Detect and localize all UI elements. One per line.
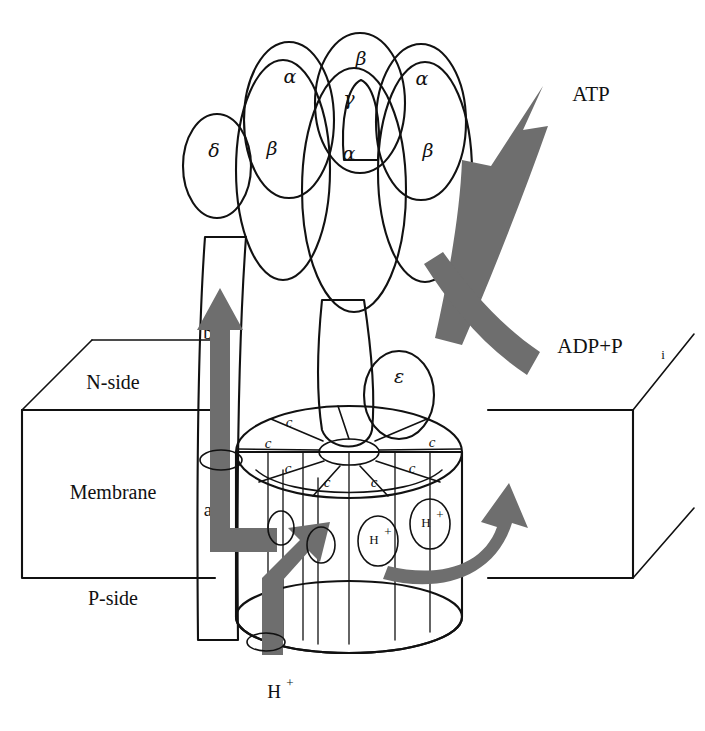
- proton-1-label: H: [369, 532, 378, 547]
- membrane-p-side-label: P-side: [88, 587, 138, 609]
- alpha-back-left-label: α: [284, 65, 297, 87]
- gamma-stalk: [318, 300, 373, 447]
- beta-front-left-label: β: [266, 137, 278, 159]
- c-subunit-label: c: [371, 474, 378, 490]
- f1-back-row: α β α γ: [244, 33, 466, 200]
- c-subunit-label: c: [285, 460, 292, 476]
- adp-label-group: ADP+P i: [557, 334, 665, 362]
- membrane-n-side-label: N-side: [86, 371, 139, 393]
- atp-label: ATP: [572, 82, 609, 106]
- alpha-back-left: α: [244, 42, 334, 198]
- atp-output-arrow: [435, 86, 548, 345]
- membrane-body-label: Membrane: [70, 481, 157, 503]
- adp-label: ADP+P: [557, 334, 623, 358]
- adp-subscript-label: i: [661, 347, 665, 362]
- c-subunit-label: c: [265, 435, 272, 451]
- epsilon-subunit-label: ε: [394, 365, 404, 387]
- delta-subunit: δ: [183, 114, 251, 218]
- gamma-subunit-label: γ: [343, 87, 355, 109]
- c-subunit-label: c: [409, 460, 416, 476]
- delta-subunit-label: δ: [208, 139, 219, 161]
- alpha-front-center-label: α: [343, 142, 356, 164]
- membrane-right-slab: [488, 334, 694, 578]
- c-subunit-label: c: [324, 474, 331, 490]
- epsilon-subunit: ε: [364, 351, 434, 439]
- alpha-back-right-label: α: [416, 67, 429, 89]
- proton-2-label: H: [421, 515, 430, 530]
- proton-source-label: H: [267, 681, 281, 702]
- proton-1-charge: +: [384, 524, 391, 539]
- beta-back-center-label: β: [355, 47, 367, 69]
- proton-source-charge: +: [286, 675, 293, 690]
- proton-2-charge: +: [436, 507, 443, 522]
- proton-source-label-group: H +: [267, 675, 294, 702]
- alpha-back-right: α: [376, 44, 466, 200]
- proton-1: H +: [358, 516, 398, 566]
- beta-front-right-label: β: [422, 139, 434, 161]
- c-subunit-label: c: [286, 414, 293, 430]
- atp-synthase-figure: N-side Membrane P-side b a: [0, 0, 705, 731]
- c-subunit-label: c: [429, 434, 436, 450]
- c-ring-rotation-arrow: [383, 483, 528, 584]
- figure-canvas: N-side Membrane P-side b a: [0, 0, 705, 731]
